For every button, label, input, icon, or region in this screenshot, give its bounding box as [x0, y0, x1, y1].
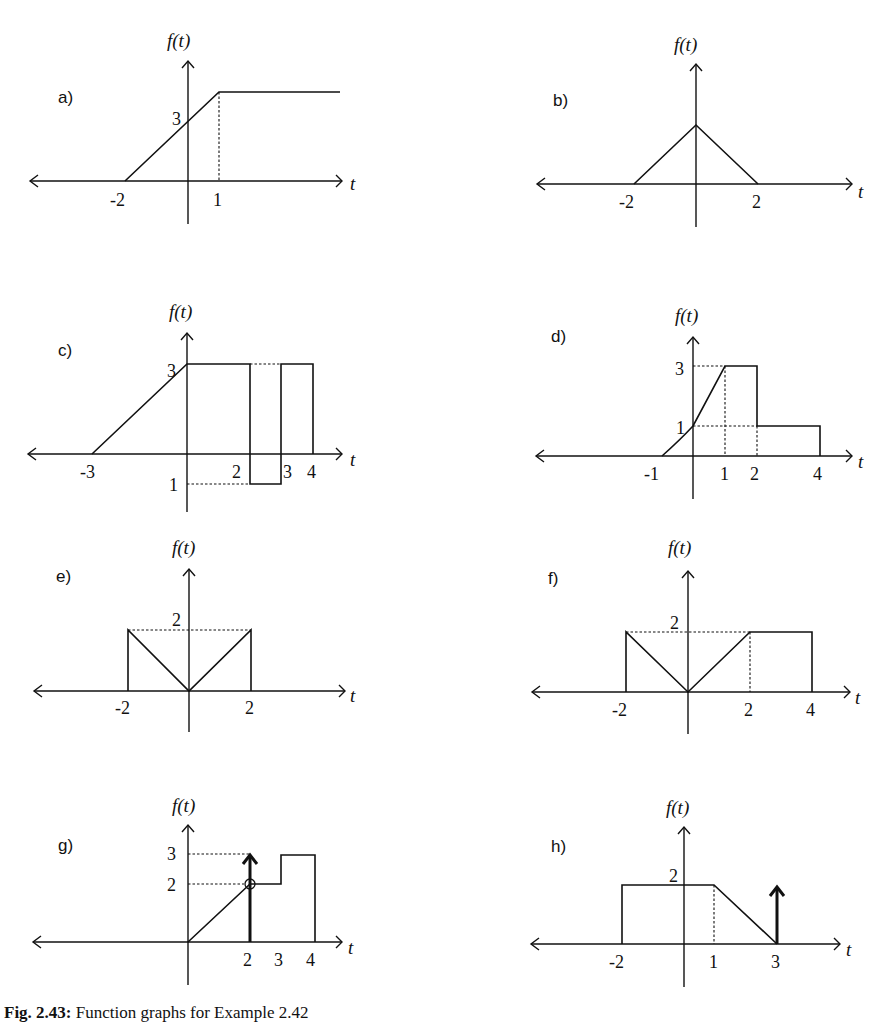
panel-g: g) f(t) t 3 2 2 3 4 [33, 795, 354, 985]
caption-text: Function graphs for Example 2.42 [76, 1003, 309, 1022]
y-tick: 3 [675, 359, 684, 379]
panel-label: a) [58, 88, 73, 107]
x-tick: 2 [744, 700, 753, 720]
axes [33, 825, 342, 985]
caption-prefix: Fig. 2.43: [4, 1003, 72, 1022]
x-axis-label: t [846, 939, 852, 960]
panel-label: b) [553, 91, 568, 110]
y-tick: 2 [167, 875, 176, 895]
x-tick: 2 [232, 462, 241, 482]
y-axis-label: f(t) [172, 537, 195, 559]
axes [531, 827, 840, 987]
panel-a: a) f(t) t 3 -2 1 [30, 30, 356, 224]
x-tick: 3 [274, 950, 283, 970]
y-tick: 1 [169, 475, 178, 495]
x-axis-label: t [348, 937, 354, 958]
panel-label: h) [551, 837, 566, 856]
y-tick: 2 [669, 866, 678, 886]
x-axis-label: t [858, 181, 864, 202]
panel-c: c) f(t) t 3 1 -3 2 3 4 [28, 301, 356, 512]
x-tick: -2 [619, 192, 634, 212]
x-tick: 1 [213, 190, 222, 210]
x-axis-label: t [350, 449, 356, 470]
y-axis-label: f(t) [169, 301, 192, 323]
signal-curve [92, 364, 313, 484]
axes [28, 333, 342, 512]
x-tick: -2 [110, 190, 125, 210]
axes [537, 64, 852, 227]
panel-h: h) f(t) t 2 -2 1 3 [531, 797, 852, 987]
y-tick: 3 [167, 844, 176, 864]
y-tick: 1 [676, 418, 685, 438]
x-tick: 4 [806, 700, 815, 720]
panel-e: e) f(t) t 2 -2 2 [34, 537, 356, 732]
y-tick: 3 [172, 109, 181, 129]
y-tick: 2 [670, 613, 679, 633]
x-tick: 3 [283, 462, 292, 482]
x-tick: 1 [720, 464, 729, 484]
y-tick: 2 [172, 610, 181, 630]
x-tick: 2 [750, 464, 759, 484]
x-axis-label: t [858, 451, 864, 472]
x-tick: 3 [771, 952, 780, 972]
signal-curve [662, 366, 820, 456]
y-axis-label: f(t) [167, 30, 190, 52]
signal-curve [622, 885, 777, 944]
panel-b: b) f(t) t -2 2 [537, 34, 864, 227]
x-tick: 4 [307, 462, 316, 482]
x-tick: -1 [644, 464, 659, 484]
panel-label: d) [551, 327, 566, 346]
x-axis-label: t [350, 173, 356, 194]
axes [536, 337, 852, 499]
y-axis-label: f(t) [666, 797, 689, 819]
panel-label: f) [548, 569, 558, 588]
y-axis-label: f(t) [172, 795, 195, 817]
axes [532, 571, 850, 734]
signal-curve [626, 632, 812, 692]
x-tick: -2 [609, 952, 624, 972]
axes [30, 61, 342, 224]
panel-d: d) f(t) t 3 1 -1 1 2 4 [536, 305, 864, 499]
x-axis-label: t [855, 687, 861, 708]
y-axis-label: f(t) [674, 34, 697, 56]
panel-f: f) f(t) t 2 -2 2 4 [532, 537, 861, 734]
figure-caption: Fig. 2.43: Function graphs for Example 2… [4, 1003, 309, 1023]
x-tick: 4 [306, 950, 315, 970]
y-tick: 3 [167, 361, 176, 381]
axes [34, 569, 345, 732]
x-tick: -3 [80, 462, 95, 482]
x-tick: 1 [709, 952, 718, 972]
panel-label: g) [58, 836, 73, 855]
y-axis-label: f(t) [668, 537, 691, 559]
x-tick: -2 [612, 700, 627, 720]
y-axis-label: f(t) [675, 305, 698, 327]
x-tick: -2 [115, 698, 130, 718]
x-tick: 2 [245, 698, 254, 718]
x-tick: 2 [243, 950, 252, 970]
x-tick: 2 [752, 192, 761, 212]
panel-label: c) [58, 341, 72, 360]
panel-label: e) [56, 567, 71, 586]
x-axis-label: t [350, 685, 356, 706]
signal-curve [125, 92, 340, 181]
x-tick: 4 [813, 464, 822, 484]
